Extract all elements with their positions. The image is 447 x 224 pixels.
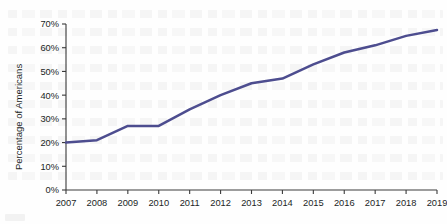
y-axis-tick-label: 20% xyxy=(40,138,59,148)
y-axis-tick-group: 0%10%20%30%40%50%60%70% xyxy=(40,19,66,195)
y-axis-tick-label: 30% xyxy=(40,114,59,124)
line-chart-plot: Percentage of Americans 0%10%20%30%40%50… xyxy=(0,0,447,224)
x-axis-tick-group: 2007200820092010201120122013201420152016… xyxy=(56,190,447,208)
y-axis-tick-label: 70% xyxy=(40,19,59,29)
x-axis-tick-label: 2017 xyxy=(365,198,386,208)
x-axis-tick-label: 2013 xyxy=(241,198,262,208)
y-axis-tick-label: 40% xyxy=(40,91,59,101)
x-axis-tick-label: 2008 xyxy=(87,198,108,208)
x-axis-tick-label: 2010 xyxy=(148,198,169,208)
y-axis-title: Percentage of Americans xyxy=(13,64,24,170)
x-axis-tick-label: 2011 xyxy=(180,198,200,208)
y-axis-title-text: Percentage of Americans xyxy=(13,64,24,170)
x-axis-tick-label: 2009 xyxy=(117,198,138,208)
scan-edge-smudge xyxy=(5,214,25,221)
x-axis-tick-label: 2012 xyxy=(210,198,231,208)
y-axis-tick-label: 60% xyxy=(40,43,59,53)
x-axis-tick-label: 2007 xyxy=(56,198,77,208)
x-axis-tick-label: 2015 xyxy=(303,198,324,208)
data-series-line xyxy=(66,30,437,143)
x-axis-tick-label: 2019 xyxy=(427,198,447,208)
chart-figure: Percentage of Americans 0%10%20%30%40%50… xyxy=(0,0,447,224)
y-axis-tick-label: 10% xyxy=(40,162,59,172)
y-axis-tick-label: 50% xyxy=(40,67,59,77)
x-axis-tick-label: 2018 xyxy=(396,198,417,208)
x-axis-tick-label: 2014 xyxy=(272,198,293,208)
y-axis-tick-label: 0% xyxy=(46,185,59,195)
x-axis-tick-label: 2016 xyxy=(334,198,355,208)
